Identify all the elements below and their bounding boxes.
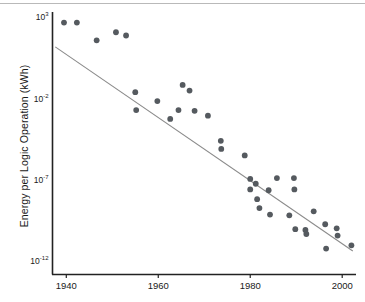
- axis-frame: [52, 12, 356, 275]
- data-point: [286, 212, 292, 218]
- data-point: [254, 196, 260, 202]
- data-point: [74, 20, 80, 26]
- data-point: [61, 20, 67, 26]
- data-point: [154, 98, 160, 104]
- data-point: [133, 107, 139, 113]
- data-point: [334, 225, 340, 231]
- scatter-plot-canvas: [0, 0, 365, 302]
- data-point: [123, 33, 129, 39]
- x-axis-tick-label: 1960: [138, 280, 178, 291]
- x-axis-tick-label: 1940: [46, 280, 86, 291]
- data-point: [253, 181, 259, 187]
- chart-figure: Energy per Logic Operation (kWh) 10310-2…: [0, 0, 365, 302]
- data-point: [257, 205, 263, 211]
- data-point: [176, 107, 182, 113]
- data-point: [187, 88, 193, 94]
- data-point: [242, 153, 248, 159]
- data-point: [323, 246, 329, 252]
- y-axis-tick-label: 10-2: [15, 94, 49, 104]
- data-point: [94, 37, 100, 43]
- trend-line-segment: [55, 47, 353, 251]
- data-point: [292, 226, 298, 232]
- data-points-group: [61, 20, 354, 252]
- data-point: [247, 187, 253, 193]
- data-point: [113, 29, 119, 35]
- x-axis-tick-label: 2000: [322, 280, 362, 291]
- data-point: [274, 175, 280, 181]
- y-axis-tick-label: 10-7: [15, 175, 49, 185]
- data-point: [192, 108, 198, 114]
- data-point: [303, 231, 309, 237]
- data-point: [322, 221, 328, 227]
- data-point: [132, 89, 138, 95]
- data-point: [167, 116, 173, 122]
- data-point: [349, 242, 355, 248]
- data-point: [247, 176, 253, 182]
- data-point: [267, 212, 273, 218]
- data-point: [205, 113, 211, 119]
- data-point: [291, 175, 297, 181]
- data-point: [218, 138, 224, 144]
- data-point: [311, 208, 317, 214]
- data-point: [291, 187, 297, 193]
- data-point: [180, 82, 186, 88]
- y-axis-tick-label: 10-12: [15, 256, 49, 266]
- x-axis-tick-label: 1980: [230, 280, 270, 291]
- data-point: [266, 187, 272, 193]
- trend-line: [55, 47, 353, 251]
- y-axis-tick-label: 103: [15, 12, 49, 22]
- data-point: [335, 233, 341, 239]
- data-point: [218, 146, 224, 152]
